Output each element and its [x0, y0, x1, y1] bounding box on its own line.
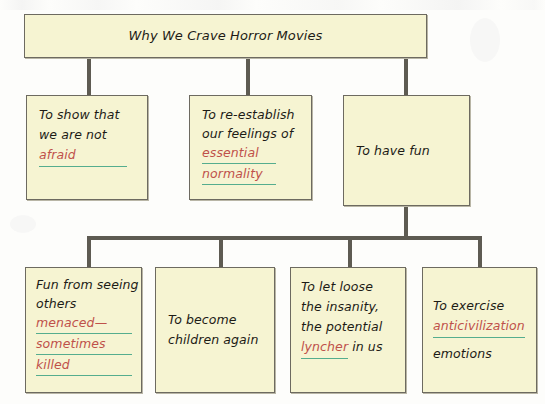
connector-bus-to-node6: [348, 236, 352, 268]
connector-horizontal-bus: [87, 236, 482, 240]
node-line: others: [36, 294, 131, 313]
scan-smudge: [470, 18, 500, 62]
node-line-text: the potential: [301, 319, 382, 334]
node-title[interactable]: Why We Crave Horror Movies: [24, 14, 427, 58]
node-to-re-establish-our-feelings[interactable]: To re-establish our feelings of essentia…: [189, 95, 312, 200]
node-line: To let loose: [301, 277, 395, 297]
node-line: To re-establish: [202, 105, 301, 124]
node-line: afraid: [39, 145, 137, 167]
node-line-text: To re-establish: [202, 107, 295, 122]
node-line-text: To exercise: [433, 298, 504, 313]
node-line: normality: [202, 164, 301, 185]
node-line: children again: [168, 330, 264, 350]
node-body: Fun from seeing others menaced— sometime…: [26, 268, 141, 382]
node-line-text: children again: [168, 332, 258, 347]
key-term: anticivilization: [433, 316, 525, 338]
node-line-text: emotions: [433, 346, 492, 361]
node-line: the insanity,: [301, 297, 395, 317]
node-body: To re-establish our feelings of essentia…: [190, 96, 311, 191]
node-line: essential: [202, 143, 301, 164]
node-title-text: Why We Crave Horror Movies: [129, 26, 323, 46]
node-line: To show that: [39, 105, 137, 125]
node-line-text: our feelings of: [202, 126, 293, 141]
node-line: the potential: [301, 317, 395, 337]
node-line: To exercise: [433, 296, 526, 316]
node-to-let-loose-the-insanity[interactable]: To let loose the insanity, the potential…: [290, 267, 406, 393]
node-line: our feelings of: [202, 124, 301, 143]
node-body: To let loose the insanity, the potential…: [291, 268, 405, 365]
node-body: To show that we are not afraid: [27, 96, 147, 173]
node-body: To exercise anticivilization emotions: [423, 268, 536, 392]
node-line-text: To let loose: [301, 279, 373, 294]
node-body: To become children again: [156, 268, 274, 392]
node-to-become-children-again[interactable]: To become children again: [155, 267, 275, 393]
key-term: normality: [202, 164, 276, 185]
node-to-have-fun[interactable]: To have fun: [343, 95, 470, 206]
connector-havefun-stem: [404, 206, 408, 240]
node-to-exercise-anticivilization-emotions[interactable]: To exercise anticivilization emotions: [422, 267, 537, 393]
key-term: afraid: [39, 145, 127, 167]
node-line: lyncher in us: [301, 337, 395, 359]
key-term: essential: [202, 143, 276, 164]
concept-map-canvas: Why We Crave Horror Movies To show that …: [0, 0, 545, 404]
node-line-text: we are not: [39, 127, 107, 142]
node-line: To have fun: [356, 141, 459, 161]
node-line: anticivilization: [433, 316, 526, 338]
key-term: menaced—: [36, 313, 132, 334]
node-line-text: To have fun: [356, 143, 430, 158]
node-line-text: Fun from seeing: [36, 277, 139, 292]
node-title-body: Why We Crave Horror Movies: [25, 15, 426, 57]
node-line: killed: [36, 355, 131, 376]
node-line-text: To become: [168, 312, 237, 327]
node-line: sometimes: [36, 334, 131, 355]
node-line: emotions: [433, 344, 526, 364]
key-term: lyncher: [301, 337, 348, 359]
node-body: To have fun: [344, 96, 469, 205]
connector-bus-to-node7: [478, 236, 482, 268]
node-line-text: the insanity,: [301, 299, 379, 314]
node-fun-from-seeing-others-menaced[interactable]: Fun from seeing others menaced— sometime…: [25, 267, 142, 393]
node-to-show-that-we-are-not-afraid[interactable]: To show that we are not afraid: [26, 95, 148, 200]
scan-smudge: [10, 215, 36, 233]
node-line: Fun from seeing: [36, 275, 131, 294]
key-term: killed: [36, 355, 132, 376]
node-line: menaced—: [36, 313, 131, 334]
connector-bus-to-node5: [219, 236, 223, 268]
node-line-text: To show that: [39, 107, 120, 122]
node-line: To become: [168, 310, 264, 330]
node-line: we are not: [39, 125, 137, 145]
key-term: sometimes: [36, 334, 132, 355]
scan-artifact-strip: [0, 0, 545, 10]
connector-title-to-node3: [404, 58, 408, 95]
node-line-suffix: in us: [348, 339, 382, 354]
connector-title-to-node2: [246, 58, 250, 95]
node-line-text: others: [36, 296, 76, 311]
connector-bus-to-node4: [87, 236, 91, 268]
connector-title-to-node1: [87, 58, 91, 95]
